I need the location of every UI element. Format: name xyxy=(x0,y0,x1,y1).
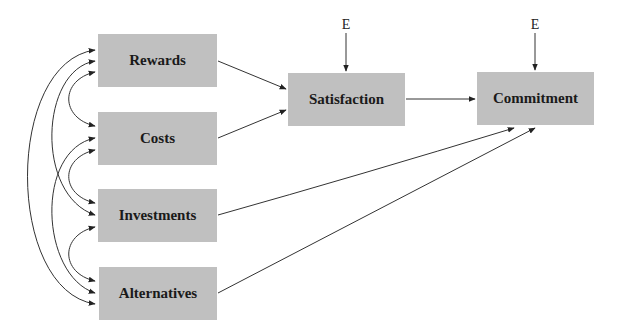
path-alternatives-to-commitment xyxy=(218,128,535,293)
node-commitment: Commitment xyxy=(477,72,594,125)
node-satisfaction: Satisfaction xyxy=(288,73,405,126)
node-label: Rewards xyxy=(129,52,186,69)
node-label: Investments xyxy=(119,207,197,224)
path-diagram-canvas xyxy=(0,0,617,336)
node-label: Satisfaction xyxy=(309,91,384,108)
node-alternatives: Alternatives xyxy=(99,267,217,320)
node-costs: Costs xyxy=(98,112,217,165)
node-label: Costs xyxy=(140,130,175,147)
error-term-commitment: E xyxy=(531,18,540,32)
covariance-rewards-alternatives xyxy=(28,50,96,304)
node-rewards: Rewards xyxy=(98,34,217,87)
node-label: Commitment xyxy=(493,90,578,107)
error-term-satisfaction: E xyxy=(342,18,351,32)
covariance-costs-alternatives xyxy=(52,138,95,293)
node-investments: Investments xyxy=(98,189,217,242)
covariance-costs-investments xyxy=(69,150,95,203)
node-label: Alternatives xyxy=(119,285,197,302)
path-investments-to-commitment xyxy=(218,128,514,215)
covariance-investments-alternatives xyxy=(69,227,95,281)
path-rewards-to-satisfaction xyxy=(218,61,286,89)
path-costs-to-satisfaction xyxy=(218,110,286,138)
covariance-rewards-investments xyxy=(52,61,95,215)
covariance-rewards-costs xyxy=(69,72,95,126)
